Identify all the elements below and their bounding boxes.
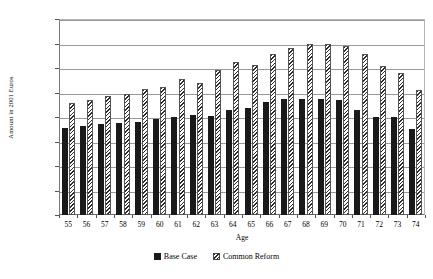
x-axis-title: Age [59,233,425,242]
x-axis-tick-mark [279,215,280,218]
bar-common-reform [179,79,185,215]
bar-common-reform [233,62,239,215]
legend-swatch-common-reform [213,253,220,260]
bar-group [315,19,333,215]
y-axis-title: Amount in 2001 Euros [0,0,20,215]
x-axis-tick-label: 74 [401,220,431,230]
bar-group [169,19,187,215]
bar-group [334,19,352,215]
x-axis-tick-mark [315,215,316,218]
bar-common-reform [87,100,93,215]
bar-group [370,19,388,215]
bar-base-case [299,99,305,215]
x-axis-tick-marks [59,215,425,219]
x-axis-tick-mark [352,215,353,218]
bar-group [205,19,223,215]
bar-base-case [354,110,360,215]
bar-common-reform [416,90,422,215]
bar-base-case [263,102,269,215]
bar-group [151,19,169,215]
legend-label-common-reform: Common Reform [223,252,279,261]
bar-base-case [153,119,159,215]
x-axis-tick-mark [151,215,152,218]
bar-group [352,19,370,215]
bars-layer [59,19,425,215]
bar-common-reform [252,65,258,215]
bar-common-reform [197,83,203,215]
bar-common-reform [343,46,349,215]
bar-common-reform [215,70,221,215]
x-axis-tick-mark [59,215,60,218]
x-axis-tick-mark [370,215,371,218]
legend-label-base-case: Base Case [164,252,197,261]
bar-common-reform [105,96,111,215]
bar-group [77,19,95,215]
bar-base-case [98,124,104,215]
x-axis-tick-mark [96,215,97,218]
bar-group [297,19,315,215]
bar-base-case [391,117,397,215]
bar-group [114,19,132,215]
bar-base-case [281,99,287,215]
y-axis-title-label: Amount in 2001 Euros [7,76,14,138]
bar-common-reform [288,48,294,215]
bar-base-case [336,100,342,215]
legend-swatch-base-case [154,253,161,260]
bar-group [187,19,205,215]
x-axis-tick-mark [77,215,78,218]
x-axis-tick-mark [205,215,206,218]
bar-base-case [373,117,379,215]
bar-group [224,19,242,215]
x-axis-tick-mark [260,215,261,218]
legend-item-base-case: Base Case [154,252,197,261]
bar-group [279,19,297,215]
bar-group [407,19,425,215]
bar-base-case [318,99,324,215]
bar-base-case [190,115,196,215]
bar-base-case [171,117,177,215]
bar-common-reform [398,73,404,215]
bar-common-reform [270,54,276,215]
bar-base-case [116,123,122,215]
bar-base-case [245,108,251,215]
x-axis-tick-mark [114,215,115,218]
bar-group [388,19,406,215]
bar-group [242,19,260,215]
x-axis-tick-mark [334,215,335,218]
bar-common-reform [142,89,148,215]
x-axis-tick-mark [425,215,426,218]
bar-base-case [135,122,141,215]
x-axis-tick-mark [224,215,225,218]
bar-group [260,19,278,215]
bar-common-reform [380,66,386,215]
bar-chart-figure: Amount in 2001 Euros 050,000100,000150,0… [0,0,433,279]
bar-common-reform [124,94,130,215]
bar-group [132,19,150,215]
chart-legend: Base Case Common Reform [0,252,433,261]
bar-base-case [208,116,214,215]
x-axis-tick-mark [187,215,188,218]
bar-common-reform [325,44,331,216]
x-axis-tick-mark [297,215,298,218]
x-axis-tick-labels: 5556575859606162636465666768697071727374 [59,220,425,232]
bar-common-reform [307,44,313,215]
bar-group [59,19,77,215]
bar-base-case [62,128,68,215]
bar-base-case [409,129,415,215]
x-axis-tick-mark [132,215,133,218]
bar-group [96,19,114,215]
x-axis-tick-mark [169,215,170,218]
legend-item-common-reform: Common Reform [213,252,279,261]
bar-common-reform [69,103,75,215]
bar-common-reform [362,54,368,215]
x-axis-tick-mark [242,215,243,218]
bar-base-case [226,110,232,215]
bar-base-case [80,126,86,215]
x-axis-tick-mark [388,215,389,218]
bar-common-reform [160,87,166,215]
x-axis-tick-mark [407,215,408,218]
